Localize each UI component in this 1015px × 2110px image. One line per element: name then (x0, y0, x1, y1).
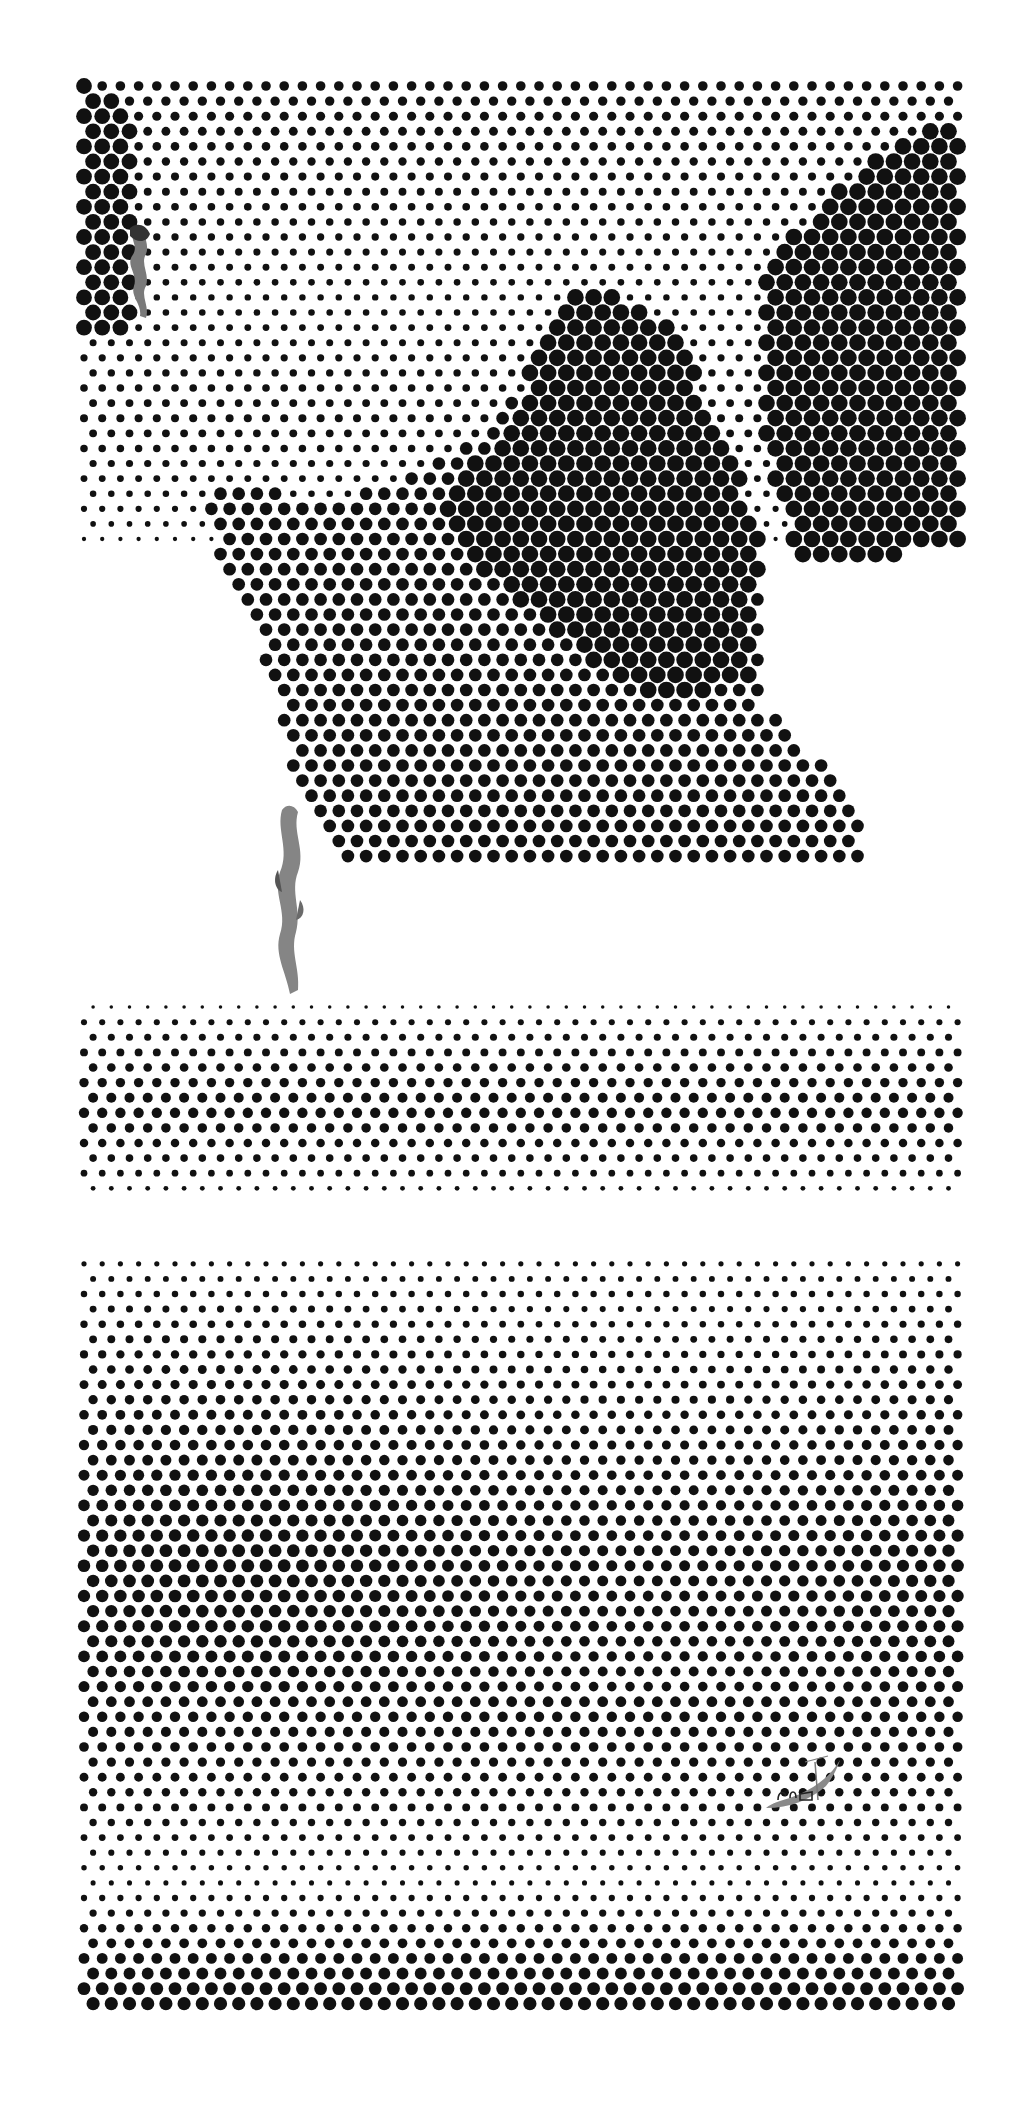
halftone-canvas (0, 0, 1015, 2110)
halftone-artwork (0, 0, 1015, 2110)
